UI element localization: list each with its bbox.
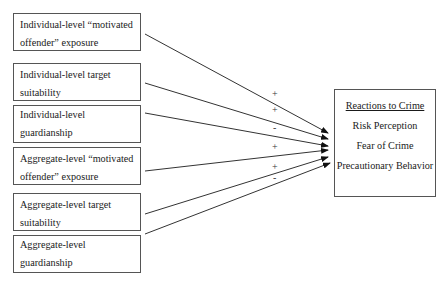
input-box-line: Individual-level guardianship	[20, 106, 140, 142]
input-box-line: suitability	[20, 214, 140, 232]
arrow-6	[145, 163, 330, 234]
input-box-individual-motivated-offender: Individual-level “motivated offender” ex…	[13, 13, 141, 51]
input-box-line: Aggregate-level target	[20, 196, 140, 214]
input-box-aggregate-guardianship: Aggregate-level guardianship	[13, 235, 141, 273]
input-box-aggregate-motivated-offender: Aggregate-level “motivated offender” exp…	[13, 147, 141, 185]
outcome-title: Reactions to Crime	[335, 100, 435, 111]
sign-label: -	[273, 172, 276, 183]
input-box-aggregate-target-suitability: Aggregate-level target suitability	[13, 193, 141, 231]
input-box-line: Individual-level target	[20, 66, 140, 84]
sign-label: +	[272, 141, 278, 152]
sign-label: +	[272, 88, 278, 99]
sign-label: -	[273, 122, 276, 133]
input-box-individual-guardianship: Individual-level guardianship	[13, 105, 141, 143]
input-box-line: offender” exposure	[20, 34, 140, 52]
outcome-item-precautionary-behavior: Precautionary Behavior	[335, 160, 435, 171]
arrow-2	[145, 83, 328, 139]
arrow-5	[145, 157, 328, 214]
outcome-item-risk-perception: Risk Perception	[335, 120, 435, 131]
sign-label: +	[272, 161, 278, 172]
input-box-line: Aggregate-level “motivated	[20, 150, 140, 168]
input-box-line: Individual-level “motivated	[20, 16, 140, 34]
arrow-4	[145, 150, 328, 171]
outcome-item-fear-of-crime: Fear of Crime	[335, 140, 435, 151]
input-box-line: suitability	[20, 84, 140, 102]
input-box-individual-target-suitability: Individual-level target suitability	[13, 63, 141, 101]
outcome-box-reactions-to-crime: Reactions to Crime Risk Perception Fear …	[334, 89, 436, 197]
input-box-line: offender” exposure	[20, 168, 140, 186]
sign-label: +	[272, 104, 278, 115]
input-box-line: Aggregate-level guardianship	[20, 236, 140, 272]
